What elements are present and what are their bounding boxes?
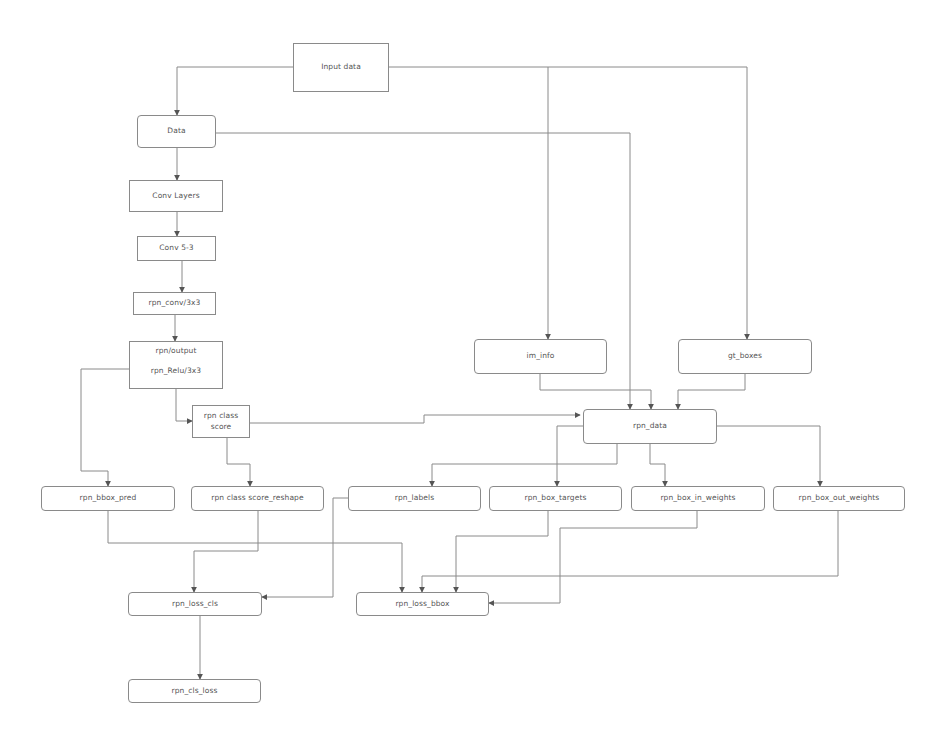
node-label-bottom: rpn_Relu/3x3 <box>151 366 201 376</box>
edge-rpn-class-score-to-rpn-data <box>250 415 580 423</box>
edge-rpn-box-out-weights-to-rpn-loss-bbox <box>422 511 838 592</box>
node-im-info[interactable]: im_info <box>474 339 607 374</box>
node-label: rpn_box_targets <box>525 493 587 503</box>
edge-input-data-to-gt-boxes <box>389 67 747 339</box>
node-rpn-cls-loss[interactable]: rpn_cls_loss <box>128 679 261 703</box>
node-label: im_info <box>527 351 555 361</box>
node-rpn-loss-cls[interactable]: rpn_loss_cls <box>128 592 262 616</box>
edge-rpn-box-targets-to-rpn-loss-bbox <box>456 511 548 592</box>
edge-rpn-box-in-weights-to-rpn-loss-bbox <box>489 511 697 603</box>
edge-rpn-output-to-rpn-class-score <box>176 389 192 421</box>
node-label: rpn_box_out_weights <box>799 493 880 503</box>
node-label: Input data <box>321 62 361 72</box>
node-label: rpn_data <box>633 421 667 431</box>
node-rpn-loss-bbox[interactable]: rpn_loss_bbox <box>356 592 489 616</box>
node-label: rpn_loss_cls <box>172 599 218 609</box>
node-label: rpn_labels <box>395 493 434 503</box>
node-label: Data <box>167 126 185 136</box>
node-input-data[interactable]: Input data <box>293 43 389 92</box>
edge-gt-boxes-to-rpn-data <box>678 374 745 409</box>
node-label: Conv Layers <box>152 191 199 201</box>
node-rpn-data[interactable]: rpn_data <box>583 409 717 444</box>
node-label: Conv 5-3 <box>159 243 193 253</box>
node-rpn-box-out-weights[interactable]: rpn_box_out_weights <box>773 486 905 511</box>
node-data[interactable]: Data <box>137 115 216 148</box>
node-label-bottom: score <box>211 422 232 432</box>
node-label: rpn_loss_bbox <box>395 599 449 609</box>
edge-rpn-labels-to-rpn-loss-cls <box>262 498 348 597</box>
edge-reshape-to-rpn-loss-cls <box>194 511 258 592</box>
node-label: rpn_box_in_weights <box>660 493 735 503</box>
node-conv-layers[interactable]: Conv Layers <box>129 180 223 212</box>
edge-rpn-class-score-to-reshape <box>227 438 250 486</box>
edge-rpn-data-to-rpn-box-out-weights <box>717 426 820 486</box>
node-rpn-class-score[interactable]: rpn class score <box>192 405 250 438</box>
edge-rpn-output-to-rpn-bbox-pred <box>81 369 129 486</box>
node-rpn-conv[interactable]: rpn_conv/3x3 <box>133 292 216 315</box>
node-rpn-labels[interactable]: rpn_labels <box>348 486 481 511</box>
node-rpn-box-in-weights[interactable]: rpn_box_in_weights <box>631 486 765 511</box>
node-label-top: rpn class <box>204 411 239 421</box>
edge-rpn-data-to-rpn-labels <box>432 444 617 486</box>
node-label: rpn class score_reshape <box>211 493 303 503</box>
node-gt-boxes[interactable]: gt_boxes <box>678 339 812 374</box>
node-rpn-box-targets[interactable]: rpn_box_targets <box>489 486 622 511</box>
node-conv5-3[interactable]: Conv 5-3 <box>137 236 216 261</box>
node-label: rpn_bbox_pred <box>80 493 137 503</box>
node-label: rpn_conv/3x3 <box>149 298 201 308</box>
node-label-top: rpn/output <box>156 346 197 356</box>
edge-input-data-to-data <box>177 67 293 115</box>
node-rpn-bbox-pred[interactable]: rpn_bbox_pred <box>41 486 175 511</box>
edge-rpn-data-to-rpn-box-in-weights <box>650 444 665 486</box>
node-label: rpn_cls_loss <box>172 686 218 696</box>
node-label: gt_boxes <box>728 351 762 361</box>
node-rpn-output[interactable]: rpn/output rpn_Relu/3x3 <box>129 341 223 389</box>
edge-im-info-to-rpn-data <box>540 374 651 409</box>
node-rpn-class-score-reshape[interactable]: rpn class score_reshape <box>191 486 324 511</box>
